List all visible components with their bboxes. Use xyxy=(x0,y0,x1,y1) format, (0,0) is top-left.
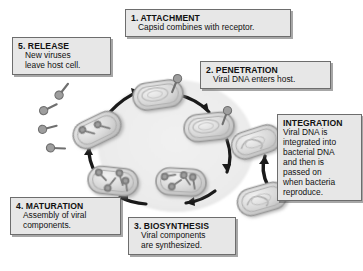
callout-biosynthesis: 3. BIOSYNTHESIS Viral components are syn… xyxy=(128,217,236,255)
callout-attachment: 1. ATTACHMENT Capsid combines with recep… xyxy=(125,9,291,37)
callout-release-line-2: leave host cell. xyxy=(25,61,106,71)
callout-penetration: 2. PENETRATION Viral DNA enters host. xyxy=(200,61,331,89)
callout-integration-body: Viral DNA is integrated into bacterial D… xyxy=(283,128,357,197)
callout-penetration-body: Viral DNA enters host. xyxy=(213,75,326,85)
bacterium-maturation xyxy=(87,165,140,197)
bacterium-penetration xyxy=(183,111,236,143)
callout-attachment-body: Capsid combines with receptor. xyxy=(138,23,286,33)
callout-maturation-line-2: components. xyxy=(23,221,116,231)
callout-release: 5. RELEASE New viruses leave host cell. xyxy=(12,37,111,75)
callout-attachment-line-1: Capsid combines with receptor. xyxy=(138,23,286,33)
free-virus-2 xyxy=(38,101,58,117)
callout-integration-line-7: reproduce. xyxy=(283,188,357,198)
diagram-canvas: 1. ATTACHMENT Capsid combines with recep… xyxy=(0,0,363,271)
callout-integration: INTEGRATION Viral DNA is integrated into… xyxy=(277,114,362,201)
callout-release-body: New viruses leave host cell. xyxy=(25,51,106,71)
callout-biosynthesis-body: Viral components are synthesized. xyxy=(141,231,231,251)
callout-penetration-line-1: Viral DNA enters host. xyxy=(213,75,326,85)
free-virus-4 xyxy=(46,144,65,153)
free-virus-1 xyxy=(53,81,71,101)
callout-maturation-body: Assembly of viral components. xyxy=(23,211,116,231)
bacterium-biosynthesis xyxy=(155,167,206,197)
callout-maturation: 4. MATURATION Assembly of viral componen… xyxy=(10,197,121,235)
callout-biosynthesis-line-2: are synthesized. xyxy=(141,241,231,251)
free-virus-3 xyxy=(38,122,58,134)
